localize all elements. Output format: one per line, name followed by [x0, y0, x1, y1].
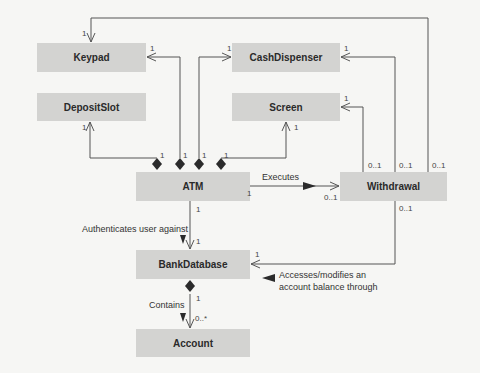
class-cashdispenser: CashDispenser: [232, 43, 340, 72]
mult-keypad-right: 1: [150, 44, 154, 53]
label-authenticates: Authenticates user against: [82, 224, 188, 235]
mult-cashdispenser-left: 1: [227, 44, 231, 53]
label-accesses-line1: Accesses/modifies an: [279, 270, 366, 281]
class-bankdatabase: BankDatabase: [136, 250, 250, 279]
class-name: DepositSlot: [64, 102, 120, 113]
class-name: BankDatabase: [159, 259, 228, 270]
mult-withdrawal-bankdatabase: 0..1: [399, 204, 412, 213]
mult-atm-cashdispenser: 1: [202, 151, 206, 160]
mult-screen-bottom: 1: [294, 123, 298, 132]
label-contains: Contains: [149, 300, 185, 311]
mult-bankdatabase-contains: 1: [196, 294, 200, 303]
class-withdrawal: Withdrawal: [340, 172, 447, 201]
mult-cashdispenser-right: 1: [344, 44, 348, 53]
direction-triangle-authenticates: [180, 235, 186, 244]
direction-triangle-contains: [180, 313, 186, 322]
mult-account-contains: 0..*: [195, 314, 207, 323]
class-name: Keypad: [73, 52, 109, 63]
mult-withdrawal-screen: 0..1: [368, 161, 381, 170]
class-keypad: Keypad: [37, 43, 146, 72]
direction-triangle-executes: [303, 182, 316, 190]
mult-screen-right: 1: [344, 94, 348, 103]
class-atm: ATM: [136, 172, 250, 201]
class-name: Screen: [269, 102, 302, 113]
class-depositslot: DepositSlot: [37, 93, 146, 121]
class-screen: Screen: [232, 93, 340, 121]
mult-atm-depositslot: 1: [160, 151, 164, 160]
mult-atm-executes: 1: [247, 189, 251, 198]
mult-bankdatabase-accesses: 1: [255, 250, 259, 259]
direction-triangle-accesses: [262, 274, 275, 282]
mult-atm-screen: 1: [224, 151, 228, 160]
mult-withdrawal-cashdispenser: 0..1: [399, 161, 412, 170]
mult-withdrawal-executes: 0..1: [324, 193, 337, 202]
mult-withdrawal-keypad: 0..1: [432, 161, 445, 170]
class-name: CashDispenser: [250, 52, 323, 63]
mult-depositslot-bottom: 1: [82, 123, 86, 132]
mult-atm-keypad: 1: [183, 151, 187, 160]
mult-atm-authenticates: 1: [196, 205, 200, 214]
class-account: Account: [136, 329, 250, 357]
mult-keypad-top: 1: [82, 29, 86, 38]
composition-diamond-account: [185, 280, 195, 292]
class-name: Withdrawal: [367, 181, 420, 192]
class-name: Account: [173, 338, 213, 349]
uml-class-diagram: Keypad CashDispenser DepositSlot Screen …: [0, 0, 480, 373]
label-executes: Executes: [262, 172, 299, 183]
class-name: ATM: [183, 181, 204, 192]
label-accesses-line2: account balance through: [279, 282, 378, 293]
mult-bankdatabase-authenticates: 1: [196, 237, 200, 246]
